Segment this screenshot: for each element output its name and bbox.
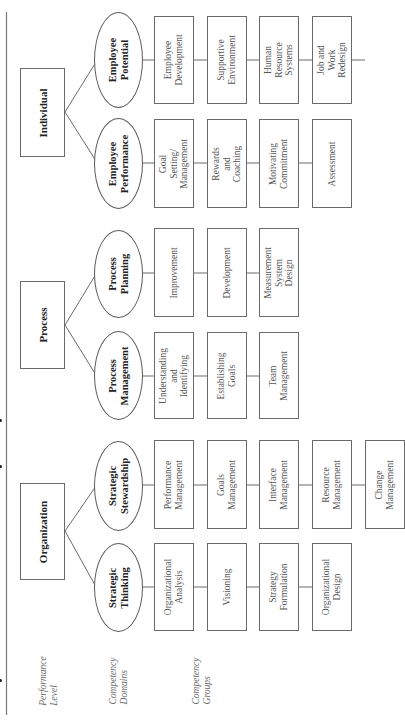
row-label-competency-groups: Competency Groups (189, 650, 215, 712)
domain-strategic-thinking: Strategic Thinking (94, 543, 143, 632)
group-team-management: Team Management (259, 332, 299, 419)
row-label-performance-level: Performance Level (38, 650, 60, 712)
group-development: Development (207, 228, 247, 317)
group-performance-management: Performance Management (154, 440, 194, 529)
domain-employee-performance: Employee Performance (94, 118, 143, 209)
domain-employee-potential: Employee Potential (94, 12, 143, 108)
group-understanding-and-identifying: Understanding and Identifying (154, 332, 194, 419)
domain-strategic-stewardship: Strategic Stewardship (94, 441, 143, 531)
group-visioning: Visioning (207, 543, 247, 631)
row-label-competency-domains: Competency Domains (106, 650, 132, 712)
group-rewards-and-coaching: Rewards and Coaching (207, 119, 247, 208)
group-resource-management: Resource Management (312, 440, 352, 529)
group-strategy-formulation: Strategy Formulation (259, 543, 299, 631)
group-organizational-design: Organizational Design (312, 543, 352, 631)
group-assessment: Assessment (312, 119, 352, 208)
level-individual: Individual (20, 68, 65, 157)
group-goal-setting-management: Goal Setting/ Management (154, 119, 194, 208)
level-process: Process (20, 281, 65, 369)
group-measurement-system-design: Measurement System Design (259, 228, 299, 317)
group-organizational-analysis: Organizational Analysis (154, 543, 194, 631)
competency-model-diagram: Performance Level Competency Domains Com… (0, 0, 405, 723)
group-establishing-goals: Establishing Goals (207, 332, 247, 419)
group-human-resource-systems: Human Resource Systems (259, 16, 299, 104)
group-supportive-environment: Supportive Environment (207, 16, 247, 104)
group-improvement: Improvement (154, 228, 194, 317)
domain-process-planning: Process Planning (94, 230, 143, 318)
group-employee-development: Employee Development (154, 16, 194, 104)
domain-process-management: Process Management (94, 331, 143, 420)
group-goals-management: Goals Management (207, 440, 247, 529)
level-organization: Organization (20, 483, 65, 580)
group-interface-management: Interface Management (259, 440, 299, 529)
group-change-management: Change Management (365, 440, 405, 529)
group-job-and-work-redesign: Job and Work Redesign (312, 16, 352, 104)
group-motivating-commitment: Motivating Commitment (259, 119, 299, 208)
